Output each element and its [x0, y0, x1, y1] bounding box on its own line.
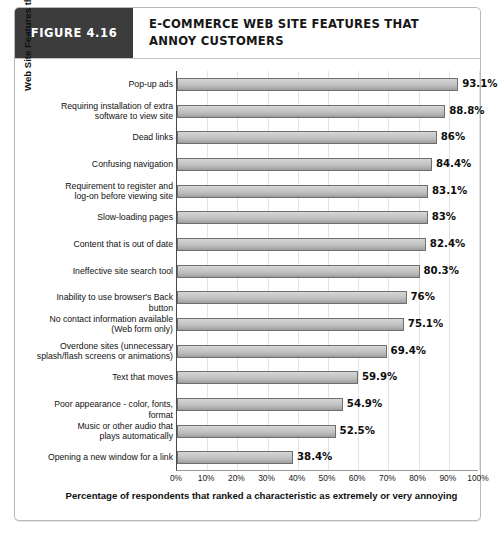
category-label-line: Inability to use browser's Back button	[35, 292, 173, 313]
category-label-line: log-on before viewing site	[35, 191, 173, 202]
category-label-line: Poor appearance - color, fonts, format	[35, 399, 173, 420]
category-label-line: splash/flash screens or animations)	[35, 351, 173, 362]
category-label: Requiring installation of extrasoftware …	[35, 101, 173, 122]
category-label: Text that moves	[35, 372, 173, 383]
category-label-line: Slow-loading pages	[35, 212, 173, 223]
x-axis-tick-labels: 0%10%20%30%40%50%60%70%80%90%100%	[176, 473, 478, 487]
category-label: Ineffective site search tool	[35, 266, 173, 277]
bar-row: 52.5%	[177, 425, 479, 438]
bar	[177, 451, 293, 464]
bar-value-label: 75.1%	[408, 317, 443, 331]
bar-value-label: 59.9%	[362, 370, 397, 384]
bar-value-label: 76%	[411, 290, 435, 304]
bar-value-label: 83.1%	[432, 184, 467, 198]
category-label-line: Ineffective site search tool	[35, 266, 173, 277]
gridline	[479, 71, 480, 470]
category-label: Slow-loading pages	[35, 212, 173, 223]
bar-value-label: 54.9%	[347, 397, 382, 411]
figure-card: FIGURE 4.16 E-COMMERCE WEB SITE FEATURES…	[14, 7, 481, 521]
bar-value-label: 80.3%	[424, 264, 459, 278]
bar-row: 59.9%	[177, 371, 479, 384]
bar	[177, 345, 387, 358]
category-label-line: Confusing navigation	[35, 159, 173, 170]
category-label-line: Content that is out of date	[35, 239, 173, 250]
category-label: No contact information available(Web for…	[35, 314, 173, 335]
category-label: Content that is out of date	[35, 239, 173, 250]
bar-row: 82.4%	[177, 238, 479, 251]
category-label-line: Text that moves	[35, 372, 173, 383]
x-tick-label: 0%	[170, 473, 182, 483]
bar-value-label: 86%	[441, 130, 465, 144]
x-tick-label: 30%	[258, 473, 275, 483]
x-tick-label: 60%	[349, 473, 366, 483]
x-tick-label: 50%	[319, 473, 336, 483]
category-label: Poor appearance - color, fonts, format	[35, 399, 173, 420]
bar-row: 83.1%	[177, 185, 479, 198]
category-label-line: software to view site	[35, 111, 173, 122]
bar-row: 69.4%	[177, 345, 479, 358]
category-label-line: Opening a new window for a link	[35, 452, 173, 463]
category-label: Requirement to register andlog-on before…	[35, 181, 173, 202]
x-tick-label: 70%	[379, 473, 396, 483]
bar	[177, 78, 458, 91]
x-tick-label: 20%	[228, 473, 245, 483]
bar	[177, 238, 426, 251]
bar-value-label: 52.5%	[340, 424, 375, 438]
category-label-line: Pop-up ads	[35, 79, 173, 90]
x-tick-label: 10%	[198, 473, 215, 483]
bar	[177, 211, 428, 224]
x-tick-label: 80%	[409, 473, 426, 483]
category-label-line: Requiring installation of extra	[35, 101, 173, 112]
x-tick-label: 40%	[288, 473, 305, 483]
bar	[177, 291, 407, 304]
category-label: Overdone sites (unnecessarysplash/flash …	[35, 341, 173, 362]
bar	[177, 398, 343, 411]
category-label: Confusing navigation	[35, 159, 173, 170]
category-label: Music or other audio thatplays automatic…	[35, 421, 173, 442]
figure-title: E-COMMERCE WEB SITE FEATURES THAT ANNOY …	[133, 8, 480, 58]
category-label: Inability to use browser's Back button	[35, 292, 173, 313]
x-tick-label: 100%	[467, 473, 488, 483]
bar	[177, 185, 428, 198]
bar	[177, 318, 404, 331]
bar	[177, 371, 358, 384]
bar-row: 84.4%	[177, 158, 479, 171]
bar-value-label: 83%	[432, 210, 456, 224]
bar-row: 54.9%	[177, 398, 479, 411]
bar-value-label: 88.8%	[449, 104, 484, 118]
y-axis-title: Web Site Features that Annoy Customers	[21, 0, 35, 91]
category-label: Dead links	[35, 132, 173, 143]
bar-value-label: 84.4%	[436, 157, 471, 171]
category-label: Opening a new window for a link	[35, 452, 173, 463]
bar-row: 93.1%	[177, 78, 479, 91]
category-label-line: plays automatically	[35, 431, 173, 442]
chart-body: Web Site Features that Annoy Customers P…	[15, 59, 480, 520]
x-tick-label: 90%	[439, 473, 456, 483]
bar-row: 88.8%	[177, 105, 479, 118]
figure-header: FIGURE 4.16 E-COMMERCE WEB SITE FEATURES…	[15, 8, 480, 59]
plot-area: 93.1%88.8%86%84.4%83.1%83%82.4%80.3%76%7…	[176, 71, 478, 471]
bar	[177, 105, 445, 118]
bar-value-label: 93.1%	[462, 77, 497, 91]
category-label-line: Requirement to register and	[35, 181, 173, 192]
category-label-line: Dead links	[35, 132, 173, 143]
bar-row: 86%	[177, 131, 479, 144]
bar	[177, 425, 336, 438]
category-label-line: Music or other audio that	[35, 421, 173, 432]
category-label-line: (Web form only)	[35, 324, 173, 335]
bar-value-label: 82.4%	[430, 237, 465, 251]
bar-row: 75.1%	[177, 318, 479, 331]
category-label: Pop-up ads	[35, 79, 173, 90]
bar	[177, 158, 432, 171]
bar-value-label: 69.4%	[391, 344, 426, 358]
bar-value-label: 38.4%	[297, 450, 332, 464]
bar-row: 38.4%	[177, 451, 479, 464]
x-axis-title: Percentage of respondents that ranked a …	[15, 490, 480, 501]
category-label-line: No contact information available	[35, 314, 173, 325]
bar-row: 83%	[177, 211, 479, 224]
bar-row: 76%	[177, 291, 479, 304]
category-label-line: Overdone sites (unnecessary	[35, 341, 173, 352]
bar	[177, 265, 420, 278]
bar-row: 80.3%	[177, 265, 479, 278]
bar	[177, 131, 437, 144]
